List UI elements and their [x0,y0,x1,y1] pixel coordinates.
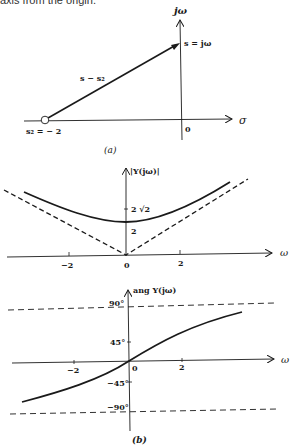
caption-a: (a) [104,145,117,155]
magnitude-omega-label: ω [280,247,288,258]
phase-tick-minus90: −90° [107,402,129,412]
x-tick-minus2: −2 [61,260,73,270]
phase-x-tick-0: 0 [132,363,138,373]
tick-label-2: 2 [131,226,137,236]
sigma-axis-label: σ [239,114,247,127]
origin-label: 0 [185,124,191,134]
magnitude-curve [24,182,230,222]
caption-b: (b) [132,435,147,445]
tick-label-2sqrt2: 2 √2 [131,204,150,214]
vector-label: s − s₂ [80,73,105,83]
magnitude-y-label: |Y(jω)| [130,166,160,176]
zero-marker [41,116,49,124]
phase-x-tick-2: 2 [179,362,185,372]
figure: jω σ 0 s = jω s − s₂ s₂ = − 2 (a) |Y(jω)… [0,0,292,446]
point-label: s = jω [184,38,212,48]
sigma-axis [24,119,232,121]
x-tick-2: 2 [178,258,184,268]
zero-label: s₂ = − 2 [26,126,61,136]
jw-axis-label: jω [172,5,188,16]
asymptote-90 [8,303,275,310]
magnitude-omega-axis [7,253,272,257]
phase-plot: ang Y(jω) 90° 45° −45° −90° −2 0 2 ω (b) [8,285,289,445]
x-tick-0: 0 [124,260,130,270]
phase-omega-axis [12,359,274,363]
phase-y-label: ang Y(jω) [133,285,176,295]
phase-omega-label: ω [281,354,289,365]
vector-arrowhead [171,43,180,50]
vector-s-minus-s2 [48,45,176,118]
phase-tick-minus45: −45° [107,378,129,388]
pole-zero-diagram: jω σ 0 s = jω s − s₂ s₂ = − 2 (a) [24,5,247,155]
phase-curve [22,312,242,402]
jw-axis [180,20,182,140]
phase-tick-90: 90° [109,298,124,308]
asymptote-minus90 [10,409,278,414]
magnitude-plot: |Y(jω)| 2 √2 2 −2 0 2 ω [4,166,288,270]
phase-x-tick-minus2: −2 [67,365,79,375]
phase-tick-45: 45° [110,337,125,347]
